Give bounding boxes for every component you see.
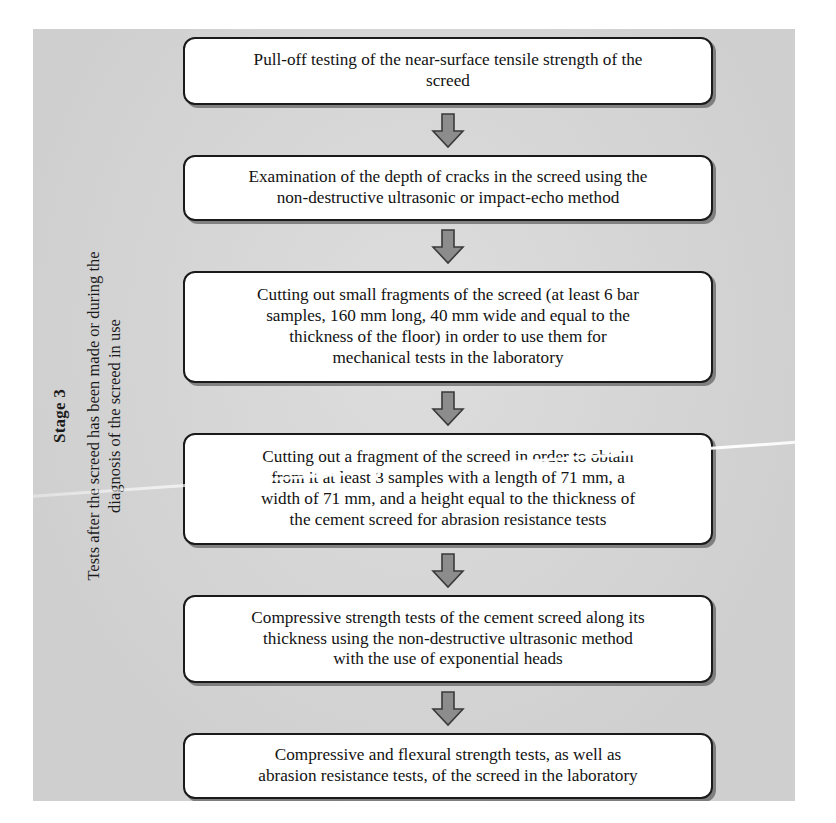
flow-node-4[interactable]: Cutting out a fragment of the screed in … <box>183 433 713 545</box>
stage-description-line-2: diagnosis of the screed in use <box>105 116 125 716</box>
connector-arrow-3 <box>431 391 465 427</box>
flow-node-4-label: Cutting out a fragment of the screed in … <box>199 447 697 531</box>
flow-node-5[interactable]: Compressive strength tests of the cement… <box>183 595 713 683</box>
stage-description-line-1: Tests after the screed has been made or … <box>84 116 104 716</box>
flow-node-3-label: Cutting out small fragments of the scree… <box>199 285 697 369</box>
stage-label-group: Stage 3 Tests after the screed has been … <box>38 29 133 801</box>
flowchart-canvas: Stage 3 Tests after the screed has been … <box>0 0 836 823</box>
flow-node-6[interactable]: Compressive and flexural strength tests,… <box>183 733 713 799</box>
connector-arrow-2 <box>431 229 465 265</box>
flow-node-1[interactable]: Pull-off testing of the near-surface ten… <box>183 37 713 105</box>
flow-node-2-label: Examination of the depth of cracks in th… <box>199 167 697 209</box>
flow-node-1-label: Pull-off testing of the near-surface ten… <box>199 50 697 92</box>
flow-node-6-label: Compressive and flexural strength tests,… <box>199 745 697 787</box>
flow-node-5-label: Compressive strength tests of the cement… <box>199 608 697 671</box>
stage-title: Stage 3 <box>50 136 70 696</box>
connector-arrow-5 <box>431 691 465 727</box>
vertical-text-wrapper: Stage 3 Tests after the screed has been … <box>38 29 133 801</box>
connector-arrow-1 <box>431 113 465 149</box>
scanned-page-background: Stage 3 Tests after the screed has been … <box>33 29 795 801</box>
flow-node-2[interactable]: Examination of the depth of cracks in th… <box>183 155 713 221</box>
connector-arrow-4 <box>431 553 465 589</box>
flow-node-3[interactable]: Cutting out small fragments of the scree… <box>183 271 713 383</box>
